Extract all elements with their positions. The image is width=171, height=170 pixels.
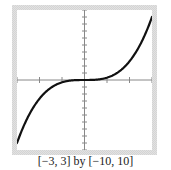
plot-area	[17, 10, 152, 150]
cubic-function-chart	[17, 10, 152, 150]
window-range-caption: [−3, 3] by [−10, 10]	[0, 154, 171, 168]
